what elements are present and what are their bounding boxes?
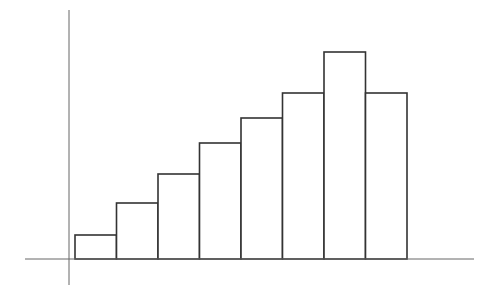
- bar-3: [158, 174, 200, 259]
- bar-7: [324, 52, 366, 259]
- bar-1: [75, 235, 117, 259]
- bar-4: [200, 143, 242, 259]
- bars-group: [75, 52, 407, 259]
- bar-8: [366, 93, 408, 259]
- bar-6: [283, 93, 325, 259]
- bar-2: [117, 203, 159, 259]
- bar-5: [241, 118, 283, 259]
- bar-chart: [0, 0, 492, 298]
